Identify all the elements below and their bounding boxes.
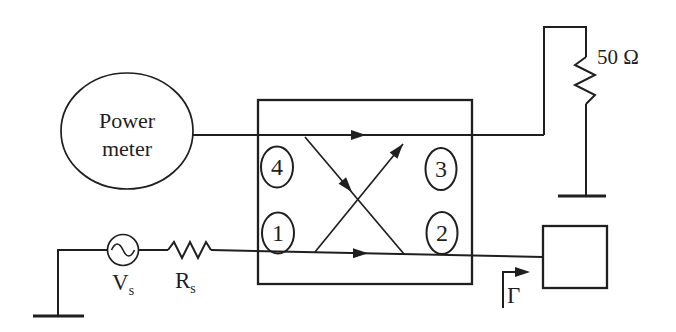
coupling-path-4-2 xyxy=(305,137,404,254)
port-3-label: 3 xyxy=(435,156,447,182)
source-label-base: V xyxy=(112,270,129,295)
load-resistor-zigzag-icon xyxy=(575,57,595,104)
power-meter-label-line2: meter xyxy=(102,136,153,161)
dut-box xyxy=(543,226,607,288)
coupled-wave-arrow2-icon xyxy=(390,144,403,159)
forward-wave-arrow-icon xyxy=(351,130,366,140)
port-4-label: 4 xyxy=(271,154,283,180)
source-resistor-label: Rs xyxy=(175,268,196,296)
source-label: Vs xyxy=(112,270,134,298)
power-meter-label-line1: Power xyxy=(99,108,156,133)
source-ground-lead xyxy=(58,250,107,316)
port-2-label: 2 xyxy=(436,220,448,246)
reflection-arrow-icon xyxy=(515,267,530,277)
coupler-box xyxy=(258,100,472,284)
load-resistor-label: 50 Ω xyxy=(597,45,639,69)
bottom-wire xyxy=(211,250,543,257)
sine-wave-icon xyxy=(112,244,135,256)
schematic-figure: Power meter 50 Ω 4 1 3 2 xyxy=(0,0,676,332)
incident-wave-arrow-icon xyxy=(353,248,368,258)
schematic-canvas: Power meter 50 Ω 4 1 3 2 xyxy=(0,0,676,332)
coupling-path-1-3 xyxy=(315,144,403,252)
load-branch-wire xyxy=(544,27,586,135)
port-1-label: 1 xyxy=(272,220,284,246)
source-resistor-label-base: R xyxy=(175,268,191,293)
source-resistor-zigzag-icon xyxy=(168,242,211,258)
reflection-label: Γ xyxy=(507,283,520,308)
source-resistor-label-sub: s xyxy=(190,281,195,296)
source-label-sub: s xyxy=(129,283,134,298)
